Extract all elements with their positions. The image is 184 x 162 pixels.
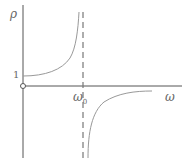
- omega0-main: ω: [73, 90, 83, 104]
- tick-label-one: 1: [13, 70, 19, 80]
- curve-right-branch: [88, 91, 152, 158]
- curve-left-branch: [23, 12, 79, 76]
- x-axis-label: ω: [165, 91, 175, 103]
- omega0-label: ω0: [73, 91, 87, 106]
- plot-area: [0, 0, 184, 162]
- omega0-subscript: 0: [83, 98, 87, 106]
- origin-marker: [21, 84, 26, 89]
- y-axis-label: ρ: [10, 8, 17, 20]
